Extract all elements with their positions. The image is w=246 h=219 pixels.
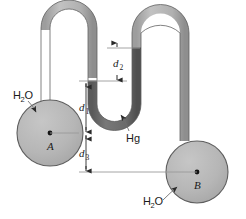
water-left-label-tail: O — [25, 89, 34, 101]
manometer-figure: A B d 2 — [0, 0, 246, 219]
tube-right-arch — [137, 9, 185, 141]
mercury-label: Hg — [126, 132, 140, 144]
d3-label: d — [79, 147, 85, 159]
d2-label-sub: 2 — [120, 63, 124, 72]
tube-left-arch — [46, 4, 93, 78]
d2-label: d — [113, 57, 119, 69]
point-a-label: A — [46, 140, 54, 152]
point-b-label: B — [194, 179, 201, 191]
d1-label-sub: 1 — [86, 107, 90, 116]
d1-label: d — [79, 101, 85, 113]
manometer-svg: A B d 2 — [0, 0, 246, 219]
water-right-label-tail: O — [155, 195, 164, 207]
d3-label-sub: 3 — [86, 153, 90, 162]
